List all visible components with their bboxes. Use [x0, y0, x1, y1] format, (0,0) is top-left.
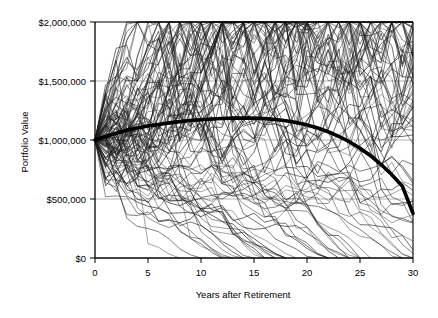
ytick-label-2000000: $2,000,000: [38, 17, 86, 28]
xtick-label-25: 25: [355, 267, 366, 278]
xtick-label-10: 10: [196, 267, 207, 278]
ytick-label-1500000: $1,500,000: [38, 76, 86, 87]
xtick-label-20: 20: [302, 267, 313, 278]
x-axis-title: Years after Retirement: [196, 289, 291, 300]
ytick-label-500000: $500,000: [46, 194, 86, 205]
monte-carlo-portfolio-chart: $2,000,000 $1,500,000 $1,000,000 $500,00…: [0, 0, 438, 318]
xtick-label-0: 0: [92, 267, 97, 278]
ytick-label-1000000: $1,000,000: [38, 135, 86, 146]
ytick-label-0: $0: [75, 253, 86, 264]
xtick-label-5: 5: [145, 267, 150, 278]
y-axis-title: Portfolio Value: [19, 111, 30, 172]
xtick-label-30: 30: [408, 267, 419, 278]
chart-canvas: $2,000,000 $1,500,000 $1,000,000 $500,00…: [0, 0, 438, 318]
xtick-label-15: 15: [249, 267, 260, 278]
